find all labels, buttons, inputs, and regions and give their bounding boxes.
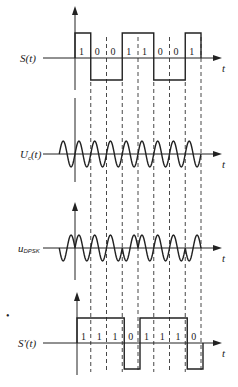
relative-bit-labels: 11101110 bbox=[81, 331, 196, 342]
t-label: t bbox=[222, 62, 226, 74]
x-axis-arrow-icon bbox=[213, 151, 222, 157]
panel-dpsk: uDPSK t bbox=[18, 202, 226, 280]
t-label: t bbox=[222, 158, 226, 170]
t-label: t bbox=[222, 347, 226, 359]
y-axis-arrow-icon bbox=[72, 202, 78, 211]
x-axis-arrow-icon bbox=[213, 340, 222, 346]
panel-carrier: Uc(t) t bbox=[20, 98, 226, 182]
panel-relative: • S'(t) t 11101110 bbox=[6, 292, 226, 375]
bit-label: 1 bbox=[97, 331, 102, 342]
bit-label: 0 bbox=[111, 46, 116, 57]
bit-label: 1 bbox=[189, 46, 194, 57]
bit-label: 1 bbox=[160, 331, 165, 342]
bit-label: 1 bbox=[126, 46, 131, 57]
bit-label: 1 bbox=[113, 331, 118, 342]
bit-label: 1 bbox=[144, 331, 149, 342]
bit-label: 0 bbox=[174, 46, 179, 57]
bit-label: 0 bbox=[158, 46, 163, 57]
bit-label: 1 bbox=[176, 331, 181, 342]
dpsk-diagram: S(t) t 10011001 Uc(t) t uDPSK t • S'(t) … bbox=[0, 0, 238, 387]
bit-label: 0 bbox=[95, 46, 100, 57]
y-axis-arrow-icon bbox=[72, 6, 78, 15]
bit-label: 1 bbox=[81, 331, 86, 342]
stray-mark: • bbox=[6, 310, 10, 321]
bit-label: 1 bbox=[79, 46, 84, 57]
y-axis-arrow-icon bbox=[74, 292, 80, 301]
label-source: S(t) bbox=[20, 52, 36, 65]
label-carrier: Uc(t) bbox=[20, 148, 42, 161]
bit-boundary-dashes bbox=[91, 37, 201, 372]
source-bit-labels: 10011001 bbox=[79, 46, 194, 57]
label-relative: S'(t) bbox=[18, 337, 37, 350]
x-axis-arrow-icon bbox=[213, 245, 222, 251]
bit-label: 0 bbox=[191, 331, 196, 342]
x-axis-arrow-icon bbox=[213, 55, 222, 61]
bit-label: 1 bbox=[142, 46, 147, 57]
bit-label: 0 bbox=[128, 331, 133, 342]
label-dpsk: uDPSK bbox=[18, 242, 41, 254]
t-label: t bbox=[222, 252, 226, 264]
panel-source: S(t) t 10011001 bbox=[20, 6, 226, 90]
